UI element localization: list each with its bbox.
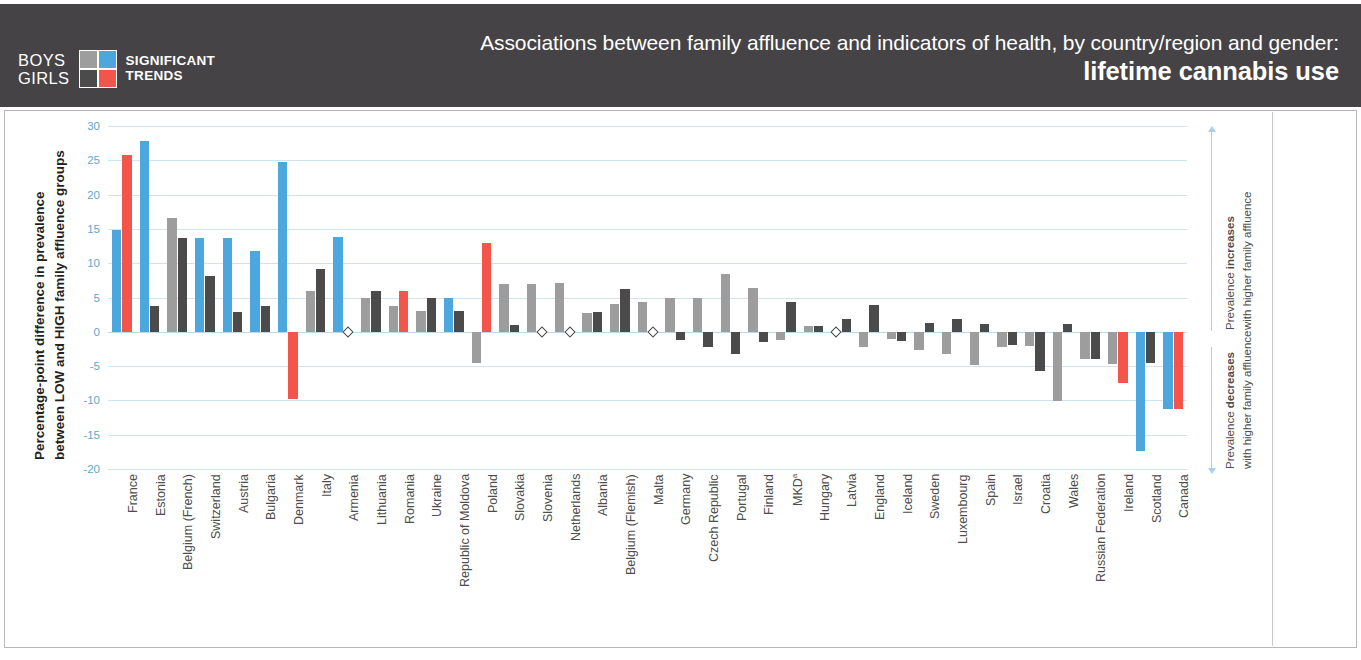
bar-boys [112, 230, 121, 332]
header-band: BOYS GIRLS SIGNIFICANT TRENDS Associatio… [0, 4, 1361, 107]
missing-data-diamond [536, 326, 547, 337]
bar-boys [665, 298, 674, 332]
y-tick-label--20: -20 [62, 463, 100, 475]
side-axis-arrow-up [1208, 126, 1216, 132]
bar-boys [1025, 332, 1034, 346]
gridline-10 [108, 263, 1187, 264]
x-label-croatia: Croatia [1040, 474, 1053, 514]
bar-girls [1063, 324, 1072, 332]
y-axis-ticks: 302520151050-5-10-15-20 [62, 126, 104, 469]
side-note-rest-increase: with higher family affluence [1241, 192, 1253, 331]
bar-boys [887, 332, 896, 339]
side-note-bold-increase: Prevalence increases [1224, 216, 1236, 330]
bar-girls [205, 276, 214, 332]
x-label-belgium-french-: Belgium (French) [182, 474, 195, 570]
x-axis-labels: FranceEstoniaBelgium (French)Switzerland… [108, 474, 1187, 644]
x-label-russian-federation: Russian Federation [1095, 474, 1108, 582]
bar-boys [472, 332, 481, 363]
bar-boys [223, 238, 232, 332]
chart-title-primary: Associations between family affluence an… [339, 30, 1339, 56]
bar-boys [693, 298, 702, 332]
bar-boys [942, 332, 951, 355]
x-label-hungary: Hungary [819, 474, 832, 521]
bar-girls [759, 332, 768, 342]
y-tick-label-0: 0 [62, 326, 100, 338]
y-tick-label-30: 30 [62, 120, 100, 132]
legend-girls-label: GIRLS [18, 69, 70, 87]
bar-boys [582, 313, 591, 332]
bar-boys [333, 237, 342, 332]
x-label-switzerland: Switzerland [210, 474, 223, 539]
x-label-poland: Poland [487, 474, 500, 513]
x-label-armenia: Armenia [348, 474, 361, 521]
bar-girls [288, 332, 297, 399]
bar-girls [316, 269, 325, 331]
side-note-decrease: Prevalence decreaseswith higher family a… [1222, 331, 1255, 470]
plot-area [108, 126, 1187, 469]
gridline-20 [108, 195, 1187, 196]
legend-caption: SIGNIFICANT TRENDS [126, 54, 216, 84]
bar-girls [1035, 332, 1044, 371]
y-tick-label--15: -15 [62, 429, 100, 441]
legend-caption-line2: TRENDS [126, 69, 216, 84]
legend: BOYS GIRLS SIGNIFICANT TRENDS [18, 50, 215, 88]
bar-girls [786, 302, 795, 331]
bar-boys [444, 298, 453, 332]
y-tick-label--5: -5 [62, 360, 100, 372]
bar-girls [842, 319, 851, 331]
bar-boys [140, 141, 149, 332]
side-note-increase: Prevalence increaseswith higher family a… [1222, 192, 1255, 331]
legend-gender-labels: BOYS GIRLS [18, 51, 70, 88]
gridline-15 [108, 229, 1187, 230]
bar-girls [593, 312, 602, 332]
bar-girls [925, 323, 934, 332]
bar-girls [427, 298, 436, 332]
bar-boys [1053, 332, 1062, 401]
swatch-girls-significant [99, 70, 116, 87]
bar-boys [555, 283, 564, 332]
y-axis-title-line1: Percentage-point difference in prevalenc… [32, 191, 47, 460]
x-label-austria: Austria [238, 474, 251, 513]
missing-data-diamond [564, 326, 575, 337]
bar-girls [980, 324, 989, 332]
x-label-republic-of-moldova: Republic of Moldova [459, 474, 472, 587]
bar-girls [150, 306, 159, 331]
bar-boys [721, 274, 730, 332]
bar-boys [997, 332, 1006, 347]
x-label-ukraine: Ukraine [431, 474, 444, 517]
bar-boys [167, 218, 176, 332]
bar-girls [1008, 332, 1017, 345]
bar-boys [804, 326, 813, 332]
bar-girls [1118, 332, 1127, 383]
x-label-belgium-flemish-: Belgium (Flemish) [625, 474, 638, 575]
bar-boys [970, 332, 979, 365]
bar-boys [527, 284, 536, 331]
swatch-boys-nonsignificant [80, 51, 97, 68]
x-label-england: England [874, 474, 887, 520]
bar-boys [389, 306, 398, 332]
x-label-germany: Germany [680, 474, 693, 525]
gridline--15 [108, 435, 1187, 436]
right-divider [1272, 112, 1273, 646]
gridline--10 [108, 400, 1187, 401]
y-tick-label--10: -10 [62, 394, 100, 406]
gridline--5 [108, 366, 1187, 367]
bar-boys [416, 311, 425, 332]
bar-girls [620, 289, 629, 332]
bar-boys [914, 332, 923, 350]
chart-title-subject: lifetime cannabis use [339, 56, 1339, 88]
bar-girls [454, 311, 463, 332]
bar-boys [1163, 332, 1172, 409]
bar-girls [1146, 332, 1155, 363]
x-label-malta: Malta [653, 474, 666, 505]
x-label-denmark: Denmark [293, 474, 306, 525]
bar-girls [703, 332, 712, 347]
y-tick-label-15: 15 [62, 223, 100, 235]
x-label-france: France [127, 474, 140, 513]
bar-girls [1174, 332, 1183, 409]
gridline-25 [108, 160, 1187, 161]
bar-girls [952, 319, 961, 332]
bar-girls [510, 325, 519, 332]
x-label-wales: Wales [1068, 474, 1081, 508]
bar-girls [731, 332, 740, 354]
